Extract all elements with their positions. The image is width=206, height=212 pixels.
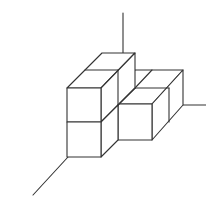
cube-diagram — [0, 0, 206, 212]
left-axis — [33, 157, 68, 195]
